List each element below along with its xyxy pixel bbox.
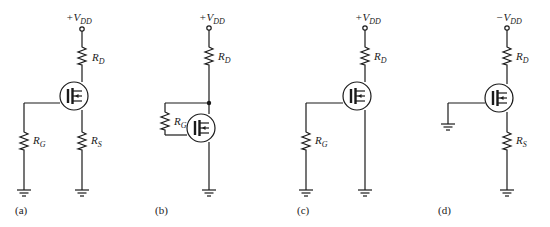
gate-resistor-label-b: RG bbox=[173, 115, 187, 130]
ground-icon bbox=[17, 190, 31, 196]
drain-resistor-label-c: RD bbox=[373, 50, 387, 65]
supply-label-d: −VDD bbox=[496, 11, 522, 26]
gate-resistor-b bbox=[161, 110, 169, 132]
caption-b: (b) bbox=[155, 204, 168, 217]
source-resistor-label-a: RS bbox=[90, 134, 102, 149]
supply-label-a: +VDD bbox=[66, 11, 92, 26]
supply-terminal-c bbox=[363, 26, 367, 30]
mosfet-c bbox=[343, 82, 371, 110]
circuit-a: +VDD RD RG RS (a) bbox=[15, 11, 105, 217]
supply-terminal-a bbox=[80, 27, 84, 31]
supply-terminal-d bbox=[505, 26, 509, 30]
caption-d: (d) bbox=[438, 204, 451, 217]
ground-icon bbox=[358, 190, 372, 196]
ground-icon bbox=[299, 190, 313, 196]
ground-icon bbox=[441, 124, 455, 130]
ground-icon bbox=[202, 190, 216, 196]
drain-resistor-b bbox=[205, 45, 213, 67]
supply-terminal-b bbox=[207, 26, 211, 30]
gate-resistor-label-c: RG bbox=[314, 134, 328, 149]
mosfet-b bbox=[187, 114, 215, 142]
ground-icon bbox=[500, 190, 514, 196]
mosfet-d bbox=[485, 84, 513, 112]
source-resistor-a bbox=[78, 130, 86, 152]
source-resistor-d bbox=[503, 130, 511, 152]
supply-label-c: +VDD bbox=[355, 11, 381, 26]
drain-resistor-label-d: RD bbox=[515, 50, 529, 65]
ground-icon bbox=[75, 190, 89, 196]
gate-resistor-a bbox=[20, 130, 28, 152]
drain-resistor-d bbox=[503, 45, 511, 67]
gate-resistor-label-a: RG bbox=[32, 134, 46, 149]
drain-resistor-label-a: RD bbox=[91, 51, 105, 66]
source-resistor-label-d: RS bbox=[515, 134, 527, 149]
circuit-b: +VDD RD RG (b) bbox=[155, 11, 231, 217]
drain-resistor-label-b: RD bbox=[217, 50, 231, 65]
mosfet-a bbox=[60, 82, 88, 110]
gate-resistor-c bbox=[302, 130, 310, 152]
circuit-figure: +VDD RD RG RS (a) +VDD RD RG bbox=[0, 0, 550, 227]
supply-label-b: +VDD bbox=[199, 11, 225, 26]
caption-a: (a) bbox=[15, 204, 28, 217]
drain-resistor-c bbox=[361, 45, 369, 67]
caption-c: (c) bbox=[297, 204, 310, 217]
circuit-c: +VDD RD RG (c) bbox=[297, 11, 387, 217]
drain-resistor-a bbox=[78, 45, 86, 67]
circuit-d: −VDD RD RS (d) bbox=[438, 11, 529, 217]
